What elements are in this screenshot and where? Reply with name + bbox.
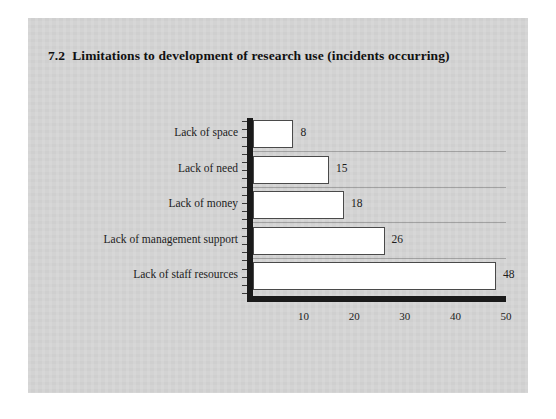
chart-panel: 7.2Limitations to development of researc… xyxy=(28,18,528,393)
row-separator xyxy=(253,258,506,259)
category-label: Lack of need xyxy=(178,162,238,174)
value-label: 15 xyxy=(336,162,348,174)
x-tick-label: 40 xyxy=(450,310,461,322)
row-separator xyxy=(253,222,506,223)
bar-2 xyxy=(253,156,329,184)
category-label: Lack of space xyxy=(174,126,238,138)
bar-4 xyxy=(253,227,385,255)
chart-page: 7.2Limitations to development of researc… xyxy=(0,0,556,419)
x-tick-label: 10 xyxy=(298,310,309,322)
value-label: 18 xyxy=(351,197,363,209)
plot-area: Lack of spaceLack of needLack of moneyLa… xyxy=(28,18,528,393)
x-tick-label: 50 xyxy=(501,310,512,322)
value-label: 26 xyxy=(392,233,404,245)
bar-1 xyxy=(253,120,293,148)
y-axis xyxy=(247,118,253,302)
bar-3 xyxy=(253,191,344,219)
value-label: 48 xyxy=(503,268,515,280)
x-axis xyxy=(247,296,506,302)
x-tick-label: 20 xyxy=(349,310,360,322)
category-label: Lack of staff resources xyxy=(133,268,238,280)
row-separator xyxy=(253,187,506,188)
category-label: Lack of money xyxy=(168,197,238,209)
x-tick-label: 30 xyxy=(399,310,410,322)
category-label: Lack of management support xyxy=(104,233,238,245)
bar-5 xyxy=(253,262,496,290)
value-label: 8 xyxy=(300,126,306,138)
row-separator xyxy=(253,151,506,152)
